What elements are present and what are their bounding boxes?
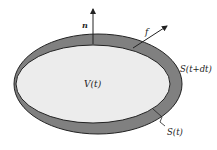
- normal-label: n: [82, 20, 88, 30]
- volume-label: V(t): [84, 79, 102, 89]
- inner-surface-label: S(t): [167, 127, 183, 137]
- control-volume-diagram: n f V(t) S(t+dt) S(t): [0, 0, 217, 150]
- outer-surface-label: S(t+dt): [180, 64, 212, 74]
- force-label: f: [144, 27, 150, 37]
